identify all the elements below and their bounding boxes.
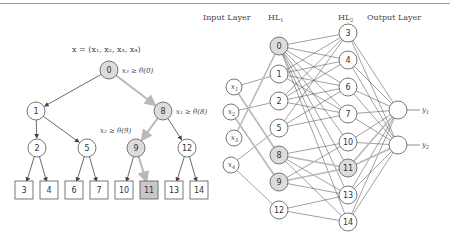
- connection: [279, 33, 348, 101]
- hidden-node-7: 7: [339, 105, 357, 123]
- network-edges: [231, 33, 420, 222]
- hidden-node-10: 10: [339, 133, 357, 151]
- tree-node-5: 5: [78, 139, 96, 157]
- hl2-label: HL2: [338, 13, 353, 23]
- connection: [279, 33, 348, 74]
- svg-text:1: 1: [33, 107, 38, 116]
- hidden-node-0: 0: [270, 37, 288, 55]
- svg-text:y2: y2: [421, 141, 429, 150]
- hidden-node-4: 4: [339, 51, 357, 69]
- tree-edge: [77, 157, 85, 182]
- tree-leaf-6: 6: [65, 181, 83, 199]
- connection: [279, 46, 348, 222]
- hidden-node-6: 6: [339, 78, 357, 96]
- highlight-connection: [279, 168, 348, 182]
- tree-edge: [177, 157, 185, 182]
- svg-text:13: 13: [343, 191, 353, 200]
- tree-leaf-10: 10: [115, 181, 133, 199]
- tree-edge: [39, 157, 46, 182]
- connection: [279, 46, 348, 195]
- svg-text:9: 9: [133, 144, 138, 153]
- output-layer-label: Output Layer: [367, 13, 421, 22]
- tree-node-8: 8: [154, 102, 172, 120]
- hidden-node-8: 8: [270, 146, 288, 164]
- hidden-node-5: 5: [270, 119, 288, 137]
- tree-edge: [27, 157, 35, 182]
- svg-text:3: 3: [345, 29, 350, 38]
- connection: [279, 87, 348, 128]
- input-node-x4: x4: [223, 157, 239, 173]
- svg-text:9: 9: [276, 178, 281, 187]
- tree-node-0: 0: [100, 61, 118, 79]
- tree-edge: [45, 74, 101, 106]
- input-node-x2: x2: [223, 104, 239, 120]
- svg-text:0: 0: [276, 42, 281, 51]
- connection: [279, 142, 348, 155]
- svg-text:10: 10: [119, 186, 129, 195]
- connection: [279, 33, 348, 128]
- svg-text:7: 7: [345, 110, 350, 119]
- connection: [279, 33, 348, 46]
- hidden-node-14: 14: [339, 213, 357, 231]
- tree-edge: [142, 118, 158, 140]
- svg-text:0: 0: [106, 66, 111, 75]
- svg-text:1: 1: [276, 70, 281, 79]
- svg-text:7: 7: [96, 186, 101, 195]
- split-label-node-9: x₂ ≥ θ(9): [100, 127, 131, 135]
- tree-edge: [89, 157, 96, 182]
- svg-text:2: 2: [34, 144, 39, 153]
- tree-input-formula: x = (x₁, x₂, x₃, x₄): [72, 45, 141, 54]
- svg-text:y1: y1: [421, 106, 429, 115]
- connection: [279, 195, 348, 210]
- svg-text:13: 13: [169, 186, 179, 195]
- tree-edge: [168, 119, 182, 140]
- svg-text:12: 12: [274, 206, 284, 215]
- hidden-node-1: 1: [270, 65, 288, 83]
- input-layer-label: Input Layer: [203, 13, 251, 22]
- hidden-node-13: 13: [339, 186, 357, 204]
- connection: [279, 114, 348, 128]
- svg-text:10: 10: [343, 138, 353, 147]
- svg-text:11: 11: [144, 186, 154, 195]
- highlight-connection: [279, 155, 348, 168]
- network-highlight-edges: [231, 46, 398, 182]
- svg-text:11: 11: [343, 164, 353, 173]
- hidden-node-9: 9: [270, 173, 288, 191]
- hidden-node-3: 3: [339, 24, 357, 42]
- svg-text:6: 6: [71, 186, 76, 195]
- svg-text:5: 5: [276, 124, 281, 133]
- tree-leaf-13: 13: [165, 181, 183, 199]
- svg-text:6: 6: [345, 83, 350, 92]
- split-label-node-0: x₃ ≥ θ(0): [122, 67, 153, 75]
- input-node-x3: x3: [226, 130, 242, 146]
- tree-node-1: 1: [27, 102, 45, 120]
- tree-edge: [139, 157, 147, 182]
- hidden-node-12: 12: [270, 201, 288, 219]
- connection: [279, 182, 348, 195]
- svg-text:4: 4: [345, 56, 350, 65]
- tree-edge: [126, 157, 133, 182]
- svg-text:8: 8: [160, 107, 165, 116]
- diagram-canvas: 01825912346710111314 x = (x₁, x₂, x₃, x₄…: [0, 0, 450, 243]
- svg-text:12: 12: [182, 144, 192, 153]
- connection: [279, 87, 348, 101]
- split-label-node-8: x₁ ≥ θ(8): [176, 108, 207, 116]
- tree-edge: [43, 116, 79, 142]
- hidden-node-11: 11: [339, 159, 357, 177]
- tree-leaf-7: 7: [90, 181, 108, 199]
- svg-text:4: 4: [46, 186, 51, 195]
- tree-edge: [189, 157, 196, 182]
- svg-text:14: 14: [194, 186, 204, 195]
- tree-edge: [116, 75, 155, 105]
- connection: [279, 46, 348, 168]
- input-node-x1: x1: [226, 79, 242, 95]
- tree-leaf-14: 14: [190, 181, 208, 199]
- tree-leaf-4: 4: [40, 181, 58, 199]
- svg-text:3: 3: [21, 186, 26, 195]
- svg-text:2: 2: [276, 97, 281, 106]
- tree-leaf-3: 3: [15, 181, 33, 199]
- svg-text:8: 8: [276, 151, 281, 160]
- hl1-label: HL1: [268, 13, 283, 23]
- tree-node-12: 12: [178, 139, 196, 157]
- hidden-node-2: 2: [270, 92, 288, 110]
